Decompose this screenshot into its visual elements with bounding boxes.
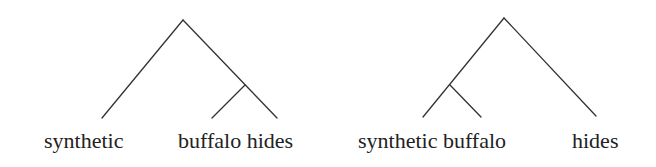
edge-inner-to-buffalo — [450, 85, 481, 117]
leaf-label-synthetic-buffalo: synthetic buffalo — [358, 128, 506, 153]
edge-root-to-synthetic — [102, 20, 183, 118]
edge-root-to-hides — [504, 18, 596, 116]
leaf-label-synthetic: synthetic — [44, 128, 124, 153]
leaf-label-buffalo-hides: buffalo hides — [178, 128, 293, 153]
leaf-label-hides: hides — [572, 128, 618, 153]
tree-left: synthetic buffalo hides — [44, 20, 293, 153]
parse-tree-diagram: synthetic buffalo hides synthetic buffal… — [0, 0, 656, 167]
edge-root-to-hides — [183, 20, 277, 118]
edge-root-to-synthetic — [423, 18, 504, 117]
edge-inner-to-buffalo — [212, 85, 245, 118]
tree-right: synthetic buffalo hides — [358, 18, 618, 153]
